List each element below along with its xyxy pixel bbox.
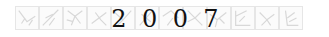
bird-sketch-icon — [39, 6, 63, 30]
bird-sketch-icon — [15, 6, 39, 30]
year-digit: 2 — [108, 5, 130, 33]
year-heading: 2 0 0 7 — [100, 3, 230, 34]
year-digit: 0 — [169, 5, 191, 33]
year-digit: 0 — [139, 5, 161, 33]
bird-sketch-icon — [279, 6, 303, 30]
bird-sketch-icon — [255, 6, 279, 30]
year-digit: 7 — [200, 5, 222, 33]
bird-sketch-icon — [231, 6, 255, 30]
bird-sketch-icon — [63, 6, 87, 30]
